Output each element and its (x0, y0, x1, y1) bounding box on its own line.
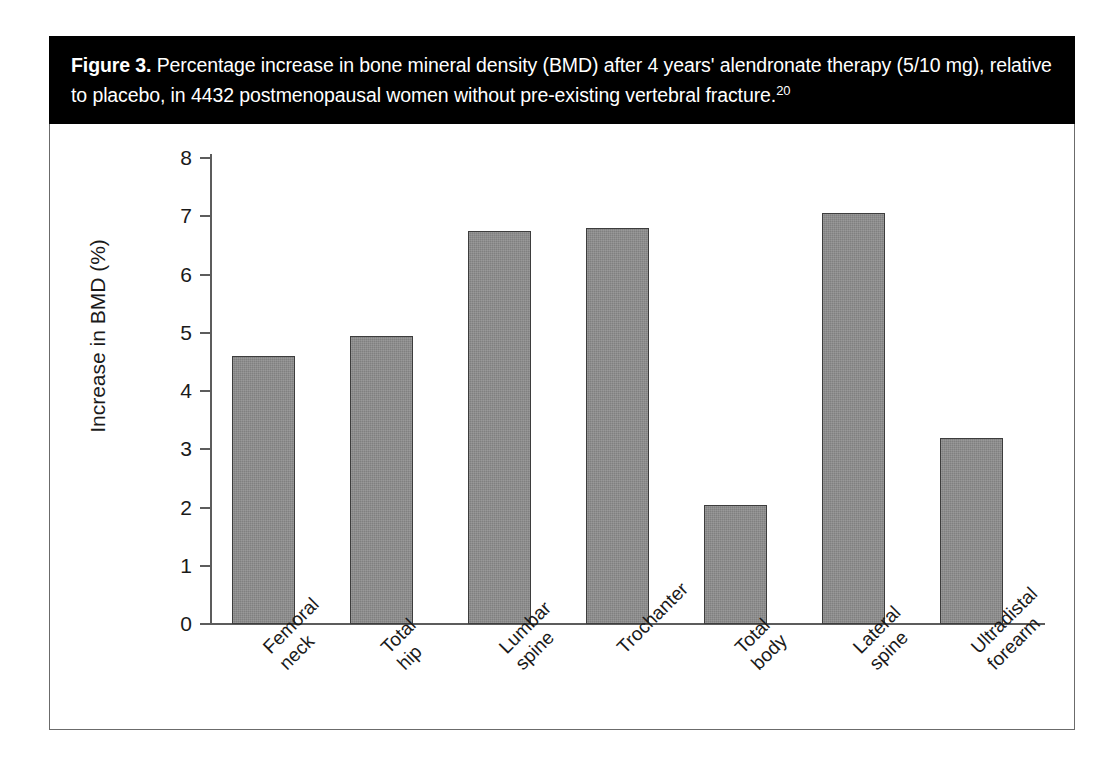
bar-lateral-spine (822, 213, 885, 624)
figure-number-label: Figure 3. (71, 54, 151, 76)
figure-caption-text: Figure 3. Percentage increase in bone mi… (71, 50, 1055, 110)
figure-reference-superscript: 20 (776, 83, 790, 98)
bar-ultradistal-forearm (940, 438, 1003, 624)
bar-trochanter (586, 228, 649, 624)
figure-caption-banner: Figure 3. Percentage increase in bone mi… (49, 36, 1075, 124)
figure-caption-body: Percentage increase in bone mineral dens… (71, 54, 1057, 106)
figure-root: Figure 3. Percentage increase in bone mi… (0, 0, 1118, 767)
bar-lumbar-spine (468, 231, 531, 624)
plot-area: Increase in BMD (%) 012345678 Femoral ne… (50, 124, 1074, 729)
bar-total-hip (350, 336, 413, 624)
bar-femoral-neck (232, 356, 295, 624)
bar-total-body (704, 505, 767, 624)
